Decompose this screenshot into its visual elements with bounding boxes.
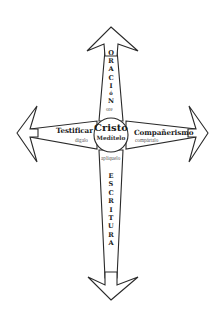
top-letter: ó xyxy=(109,90,112,97)
bottom-letter: I xyxy=(109,206,112,214)
bottom-letter: T xyxy=(109,214,114,222)
bottom-letter: S xyxy=(109,180,114,188)
center-subtitle: Medítelo xyxy=(93,136,129,142)
bottom-letter: R xyxy=(108,231,113,239)
top-letter: C xyxy=(108,74,113,82)
left-arm-label: Testificar xyxy=(56,127,93,134)
right-arm-sublabel: compártalo xyxy=(135,138,158,143)
bottom-arm-sublabel: aplíquelo xyxy=(101,156,120,161)
top-letter: O xyxy=(108,49,114,57)
bottom-letter: U xyxy=(108,222,114,230)
top-arm-sublabel: ore xyxy=(106,107,113,112)
bottom-letter: E xyxy=(108,172,113,180)
top-arm-word: O R A C I ó N xyxy=(107,49,115,105)
top-letter: A xyxy=(108,65,113,73)
center-title: Cristo xyxy=(93,123,129,133)
bottom-letter: A xyxy=(108,239,113,247)
top-letter: I xyxy=(109,82,112,90)
top-letter: R xyxy=(108,57,113,65)
arrowhead-left-icon xyxy=(17,106,38,162)
right-arm-label: Compañerismo xyxy=(134,129,193,136)
top-letter: N xyxy=(108,97,114,105)
bottom-letter: R xyxy=(108,197,113,205)
arrowhead-down-icon xyxy=(88,272,138,300)
left-arm-sublabel: dígalo xyxy=(75,138,88,143)
bottom-arm-word: E S C R I T U R A xyxy=(107,172,115,248)
bottom-letter: C xyxy=(108,189,113,197)
